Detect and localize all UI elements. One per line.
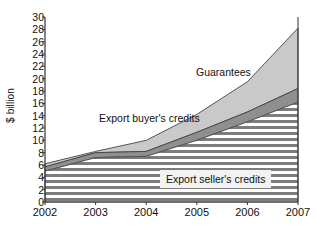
x-tick-label: 2005 xyxy=(176,206,218,218)
x-tick-label: 2004 xyxy=(125,206,167,218)
chart-container: $ billion 024681012141618202224262830 Gu… xyxy=(0,0,324,237)
x-tick-label: 2002 xyxy=(24,206,66,218)
x-tick-label: 2003 xyxy=(75,206,117,218)
x-tick-label: 2006 xyxy=(226,206,268,218)
annotation-guarantees: Guarantees xyxy=(196,66,251,78)
annotation-buyers-credits: Export buyer's credits xyxy=(99,112,200,124)
annotation-sellers-credits: Export seller's credits xyxy=(160,170,271,188)
x-tick-label: 2007 xyxy=(277,206,319,218)
